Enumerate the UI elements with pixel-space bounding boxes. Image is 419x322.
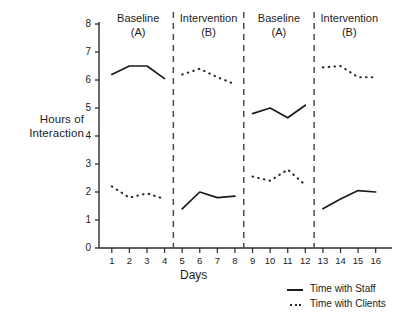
y-tick-label: 8 <box>77 18 91 29</box>
legend-label: Time with Clients <box>310 296 386 311</box>
y-tick-label: 4 <box>77 130 91 141</box>
y-tick-label: 0 <box>77 242 91 253</box>
x-tick-label: 16 <box>368 255 384 266</box>
phase-label-code: (B) <box>304 26 394 40</box>
x-tick-label: 9 <box>245 255 261 266</box>
y-tick-label: 6 <box>77 74 91 85</box>
plot-canvas <box>0 0 419 322</box>
y-tick-label: 7 <box>77 46 91 57</box>
y-tick-label: 5 <box>77 102 91 113</box>
x-axis-title: Days <box>180 268 207 282</box>
phase-divider-layer <box>173 12 314 248</box>
series-line-staff <box>182 192 235 209</box>
series-line-clients <box>112 186 165 199</box>
x-tick-label: 11 <box>280 255 296 266</box>
x-tick-label: 14 <box>333 255 349 266</box>
x-tick-label: 2 <box>121 255 137 266</box>
chart-figure: Hours of Interaction Days 012345678 1234… <box>0 0 419 322</box>
series-line-clients <box>182 69 235 84</box>
x-tick-label: 15 <box>350 255 366 266</box>
x-tick-label: 12 <box>297 255 313 266</box>
legend-item: Time with Clients <box>286 296 386 311</box>
chart-legend: Time with StaffTime with Clients <box>286 281 386 311</box>
phase-label-name: Intervention <box>304 12 394 26</box>
x-tick-label: 6 <box>192 255 208 266</box>
series-line-clients <box>323 66 376 77</box>
series-line-staff <box>323 191 376 209</box>
y-tick-label: 1 <box>77 214 91 225</box>
x-tick-label: 7 <box>209 255 225 266</box>
x-tick-label: 10 <box>262 255 278 266</box>
solid-line-icon <box>286 284 304 294</box>
x-tick-label: 1 <box>104 255 120 266</box>
legend-item: Time with Staff <box>286 281 386 296</box>
y-tick-label: 2 <box>77 186 91 197</box>
y-tick-label: 3 <box>77 158 91 169</box>
x-tick-label: 8 <box>227 255 243 266</box>
legend-label: Time with Staff <box>310 281 376 296</box>
x-tick-label: 13 <box>315 255 331 266</box>
series-line-clients <box>253 170 306 185</box>
x-tick-label: 3 <box>139 255 155 266</box>
x-tick-label: 4 <box>157 255 173 266</box>
series-line-staff <box>112 66 165 79</box>
series-line-staff <box>253 105 306 118</box>
phase-label: Intervention(B) <box>304 12 394 39</box>
y-axis-title: Hours of Interaction <box>6 112 84 140</box>
dotted-line-icon <box>286 299 304 309</box>
y-axis-title-text: Hours of Interaction <box>29 113 84 139</box>
x-tick-label: 5 <box>174 255 190 266</box>
